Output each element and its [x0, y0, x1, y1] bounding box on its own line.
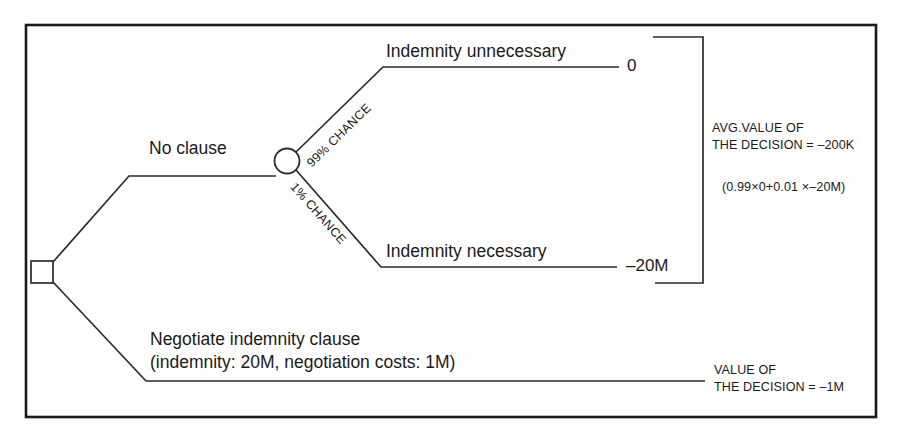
branch-label-no-clause: No clause — [149, 138, 227, 159]
annotation-avg-value-line1: AVG.VALUE OF — [712, 120, 804, 138]
chance-node — [275, 149, 300, 174]
value-bracket — [653, 37, 703, 283]
payoff-indemnity-unnecessary: 0 — [627, 56, 636, 76]
decision-tree-figure: No clause 99% CHANCE 1% CHANCE Indemnity… — [0, 0, 900, 441]
outcome-label-indemnity-necessary: Indemnity necessary — [386, 241, 547, 262]
annotation-negotiate-value-line2: THE DECISION = –1M — [714, 379, 844, 397]
branch-label-negotiate-line2: (indemnity: 20M, negotiation costs: 1M) — [150, 352, 455, 373]
decision-node — [31, 261, 53, 283]
branch-no-clause-line — [53, 176, 276, 262]
branch-label-negotiate-line1: Negotiate indemnity clause — [150, 329, 360, 350]
annotation-avg-value-line2: THE DECISION = –200K — [712, 137, 854, 155]
annotation-negotiate-value-line1: VALUE OF — [714, 362, 776, 380]
outcome-label-indemnity-unnecessary: Indemnity unnecessary — [386, 41, 566, 62]
annotation-avg-value-formula: (0.99×0+0.01 ×–20M) — [722, 180, 845, 195]
payoff-indemnity-necessary: –20M — [626, 256, 669, 276]
